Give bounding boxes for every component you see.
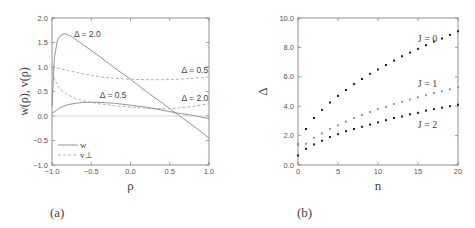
data-point: [425, 110, 427, 112]
x-tick-label: 0: [296, 167, 300, 176]
data-point: [449, 105, 451, 107]
y-tick-label: 2.0: [38, 14, 48, 23]
data-point: [313, 137, 315, 139]
data-point: [305, 128, 307, 130]
data-point: [385, 64, 387, 66]
data-point: [337, 133, 339, 135]
y-tick-label: 0.0: [38, 112, 48, 121]
data-point: [297, 143, 299, 145]
data-point: [457, 104, 459, 106]
x-tick-label: 10: [374, 167, 382, 176]
annotation: Δ = 0.5: [182, 65, 209, 75]
data-point: [385, 106, 387, 108]
data-point: [305, 143, 307, 145]
data-point: [369, 73, 371, 75]
y-tick-label: 10.0: [279, 14, 294, 23]
data-point: [361, 78, 363, 80]
panel-label-a: (a): [50, 205, 64, 221]
data-point: [393, 60, 395, 62]
data-point: [417, 112, 419, 114]
data-point: [305, 148, 307, 150]
data-point: [433, 108, 435, 110]
data-point: [313, 117, 315, 119]
data-point: [337, 124, 339, 126]
y-tick-label: 1.0: [38, 63, 48, 72]
data-point: [369, 111, 371, 113]
x-axis-label: n: [375, 178, 382, 193]
data-point: [329, 136, 331, 138]
data-point: [441, 91, 443, 93]
x-tick-label: 5: [336, 167, 340, 176]
data-point: [377, 108, 379, 110]
y-tick-label: 2.0: [284, 131, 294, 140]
y-axis-label: w(ρ), v(ρ): [17, 67, 31, 116]
x-tick-label: 20: [454, 167, 462, 176]
y-tick-label: −0.5: [33, 136, 48, 145]
data-point: [441, 107, 443, 109]
data-point: [425, 44, 427, 46]
annotation: J = 0: [418, 33, 438, 44]
y-axis-label: Δ: [255, 87, 270, 95]
data-point: [409, 52, 411, 54]
x-tick-label: 15: [414, 167, 422, 176]
data-point: [313, 143, 315, 145]
data-point: [345, 130, 347, 132]
data-point: [345, 89, 347, 91]
annotation: Δ = 2.0: [182, 93, 209, 103]
x-tick-label: 0.0: [125, 167, 135, 176]
plot-frame: [52, 18, 209, 165]
data-point: [457, 30, 459, 32]
data-point: [361, 126, 363, 128]
data-point: [321, 109, 323, 111]
data-point: [401, 115, 403, 117]
data-point: [401, 101, 403, 103]
annotation: J = 2: [418, 119, 438, 130]
annotation: Δ = 0.5: [100, 90, 127, 100]
data-point: [417, 96, 419, 98]
y-tick-label: 1.5: [38, 38, 48, 47]
data-point: [321, 132, 323, 134]
y-tick-label: 0.5: [38, 87, 48, 96]
data-point: [369, 124, 371, 126]
data-point: [449, 34, 451, 36]
data-point: [337, 95, 339, 97]
data-point: [353, 83, 355, 85]
y-tick-label: −1.0: [33, 161, 48, 170]
data-point: [345, 121, 347, 123]
y-tick-label: 0.0: [284, 161, 294, 170]
y-tick-label: 6.0: [284, 72, 294, 81]
x-tick-label: 1.0: [204, 167, 214, 176]
y-tick-label: 8.0: [284, 43, 294, 52]
legend-label-v: v⊥: [80, 150, 93, 160]
data-point: [377, 121, 379, 123]
data-point: [393, 103, 395, 105]
data-point: [353, 117, 355, 119]
x-tick-label: −0.5: [84, 167, 99, 176]
data-point: [433, 92, 435, 94]
chart-b: 051015200.02.04.06.08.010.0J = 0J = 1J =…: [240, 0, 475, 200]
data-point: [409, 113, 411, 115]
x-axis-label: ρ: [127, 178, 134, 193]
data-point: [385, 119, 387, 121]
data-point: [457, 86, 459, 88]
data-point: [329, 102, 331, 104]
chart-a: −1.0−0.50.00.51.0−1.0−0.50.00.51.01.52.0…: [0, 0, 240, 200]
x-tick-label: 0.5: [165, 167, 175, 176]
data-point: [393, 117, 395, 119]
panel-label-b: (b): [297, 205, 312, 221]
data-point: [361, 114, 363, 116]
data-point: [417, 48, 419, 50]
data-point: [377, 68, 379, 70]
annotation: J = 1: [418, 78, 438, 89]
data-point: [449, 88, 451, 90]
data-point: [353, 128, 355, 130]
data-point: [425, 94, 427, 96]
data-point: [321, 140, 323, 142]
data-point: [409, 99, 411, 101]
legend-label-w: w: [80, 140, 87, 150]
data-point: [297, 154, 299, 156]
data-point: [329, 128, 331, 130]
series-line: [52, 34, 209, 138]
annotation: Δ = 2.0: [74, 29, 101, 39]
y-tick-label: 4.0: [284, 102, 294, 111]
